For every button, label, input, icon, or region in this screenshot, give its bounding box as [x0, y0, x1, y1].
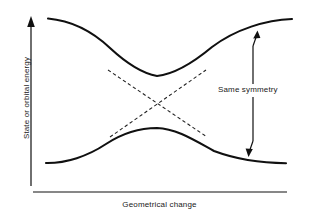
diabatic-line-descending — [108, 70, 207, 137]
x-axis-label: Geometrical change — [33, 200, 286, 209]
same-symmetry-annotation-label: Same symmetry — [218, 85, 278, 94]
figure-canvas — [0, 0, 310, 219]
y-axis-label: State or orbital energy — [22, 28, 31, 168]
brace-lower-arrow-icon — [246, 148, 253, 157]
avoided-crossing-figure: State or orbital energy Geometrical chan… — [0, 0, 310, 219]
brace-upper-arrow-icon — [253, 31, 260, 39]
upper-adiabatic-curve — [48, 19, 292, 77]
y-axis-up-arrow-icon — [27, 16, 35, 27]
lower-adiabatic-curve — [46, 128, 286, 163]
